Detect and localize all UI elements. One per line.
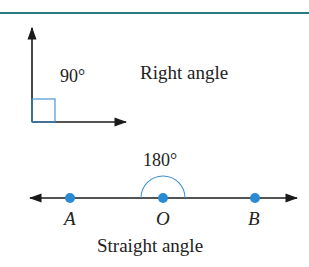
point-a-label: A <box>64 208 76 230</box>
right-angle-caption: Right angle <box>140 62 228 84</box>
point-b-label: B <box>248 208 260 230</box>
straight-angle-measure: 180° <box>143 150 177 171</box>
right-angle-measure: 90° <box>60 66 85 87</box>
point-o-label: O <box>156 208 170 230</box>
straight-angle-caption: Straight angle <box>97 235 203 257</box>
angle-diagram <box>0 0 309 267</box>
right-angle-marker <box>32 99 55 122</box>
straight-angle-figure <box>30 176 297 203</box>
point-b-dot <box>250 193 260 203</box>
point-o-dot <box>158 193 168 203</box>
point-a-dot <box>65 193 75 203</box>
